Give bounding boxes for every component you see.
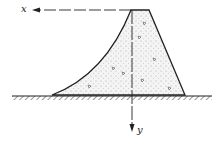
ground <box>12 96 212 100</box>
x-axis-label: x <box>21 3 27 14</box>
y-axis-label: y <box>137 124 143 135</box>
dam-body <box>52 10 185 95</box>
x-axis <box>32 8 131 13</box>
dam-diagram <box>0 0 224 147</box>
